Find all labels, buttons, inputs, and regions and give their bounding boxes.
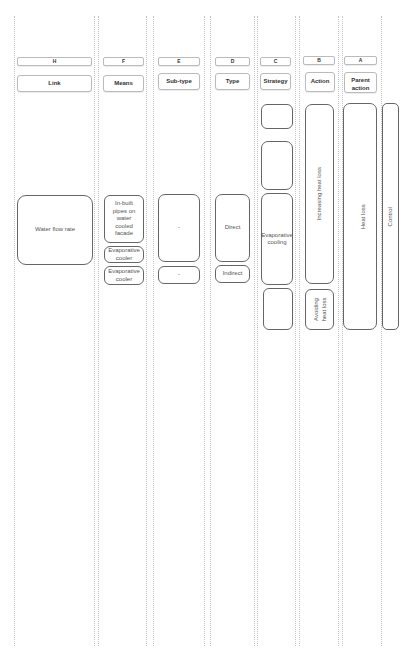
column-header-parent-action: Parent action [344, 72, 377, 93]
column-letter-d: D [215, 57, 250, 66]
column-guide-line [338, 16, 339, 646]
column-guide-line [257, 16, 258, 646]
column-letter-a: A [344, 56, 377, 65]
column-letter-c: C [260, 57, 291, 66]
means-node-in-built-pipes: In-built pipes on water cooled facade [104, 195, 144, 243]
subtype-node-2: - [158, 266, 200, 284]
action-node-increasing-heat-loss: Increasing heat loss [305, 104, 334, 284]
parent-action-node-heat-loss: Heat loss [343, 103, 377, 330]
column-letter-f: F [103, 57, 144, 66]
action-label-avoiding-heat-loss: Avoiding heat loss [312, 298, 327, 322]
root-label-control: Control [387, 207, 395, 226]
strategy-node-2 [261, 141, 293, 190]
column-guide-line [98, 16, 99, 646]
column-guide-line [254, 16, 255, 646]
column-guide-line [14, 16, 15, 646]
column-header-link: Link [17, 75, 92, 92]
action-label-increasing-heat-loss: Increasing heat loss [316, 167, 324, 220]
column-guide-line [146, 16, 147, 646]
means-node-evaporative-cooler-1: Evaporative cooler [104, 246, 144, 263]
strategy-node-1 [261, 104, 293, 129]
column-letter-b: B [303, 56, 335, 65]
type-node-direct: Direct [215, 194, 250, 262]
type-node-indirect: Indirect [215, 265, 250, 283]
action-node-avoiding-heat-loss: Avoiding heat loss [305, 289, 334, 330]
link-node-water-flow-rate: Water flow rate [17, 195, 93, 265]
column-header-action: Action [305, 72, 335, 92]
column-header-strategy: Strategy [260, 73, 291, 90]
column-header-type: Type [215, 73, 250, 90]
column-header-sub-type: Sub-type [158, 73, 200, 90]
column-guide-line [210, 16, 211, 646]
strategy-node-4 [263, 288, 293, 330]
root-node-control: Control [382, 103, 399, 330]
column-header-means: Means [103, 75, 144, 92]
column-guide-line [153, 16, 154, 646]
column-guide-line [299, 16, 300, 646]
parent-action-label-heat-loss: Heat loss [360, 204, 368, 229]
column-guide-line [295, 16, 296, 646]
column-letter-e: E [158, 57, 200, 66]
column-guide-line [94, 16, 95, 646]
column-guide-line [204, 16, 205, 646]
column-letter-h: H [17, 57, 92, 66]
subtype-node-1: - [158, 194, 200, 262]
strategy-node-evaporative-cooling: Evaporative cooling [261, 193, 293, 285]
means-node-evaporative-cooler-2: Evaporative cooler [104, 266, 144, 285]
